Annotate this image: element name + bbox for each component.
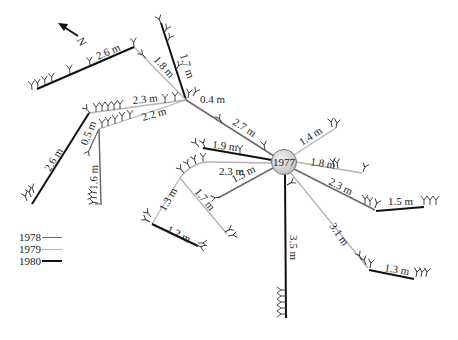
north-label: N — [75, 35, 89, 48]
north-arrow-icon: N — [58, 23, 89, 48]
legend-item-1978: 1978 — [19, 231, 62, 243]
legend-label: 1978 — [19, 231, 41, 243]
segment-s15: 1.7 m — [180, 178, 237, 239]
segment-s23: 3.5 m — [277, 174, 300, 318]
segment-label: 0.5 m — [78, 119, 99, 147]
segment-label: 2.6 m — [42, 145, 66, 173]
legend-item-1979: 1979 — [19, 243, 62, 255]
segment-s14: 1.3 m — [141, 178, 180, 225]
legend-swatch — [42, 249, 62, 250]
legend-label: 1980 — [19, 255, 41, 267]
legend: 1978 1979 1980 — [19, 231, 62, 267]
segment-label: 1.5 m — [388, 195, 414, 207]
segment-label: 0.4 m — [200, 93, 226, 105]
segment-s22: 1.3 m — [367, 259, 430, 279]
segment-s8: 2.6 m — [21, 113, 89, 204]
segment-label: 1.8 m — [310, 155, 337, 171]
segment-label: 2.7 m — [231, 116, 259, 140]
segment-label: 1.3 m — [384, 261, 411, 277]
origin-node: 1977 — [272, 150, 297, 175]
origin-label: 1977 — [273, 156, 296, 168]
legend-label: 1979 — [19, 243, 41, 255]
segment-s17: 1.4 m — [294, 118, 341, 155]
segment-s18: 1.8 m — [296, 155, 369, 173]
segment-label: 2.2 m — [140, 104, 168, 123]
segment-label: 1.7 m — [178, 52, 197, 80]
segment-s3: 0.4 m — [185, 87, 225, 105]
segment-label: 1.6 m — [87, 164, 100, 190]
segment-s20: 1.5 m — [376, 195, 439, 211]
segment-s16: 1.2 m — [152, 223, 207, 251]
segment-label: 1.8 m — [152, 53, 178, 80]
segment-label: 1.3 m — [156, 185, 179, 213]
segment-s6: 2.3 m — [82, 91, 186, 115]
segment-label: 3.5 m — [288, 235, 300, 261]
growth-diagram: N 2.7 m 1.7 m 0.4 m 1.8 m 2 — [0, 0, 458, 340]
segment-label: 1.2 m — [165, 223, 193, 245]
legend-item-1980: 1980 — [19, 255, 62, 267]
legend-swatch — [42, 260, 62, 262]
segment-s19: 2.3 m — [294, 169, 381, 210]
segment-label: 2.3 m — [327, 175, 355, 197]
legend-swatch — [42, 237, 62, 238]
